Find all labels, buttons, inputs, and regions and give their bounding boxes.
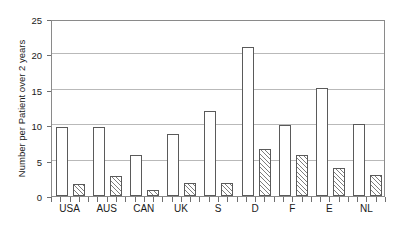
x-tick-mark: [97, 197, 98, 202]
x-tick-mark: [60, 197, 61, 202]
x-tick-label-usa: USA: [59, 203, 80, 214]
x-tick-mark: [264, 197, 265, 202]
bar-hatched-usa: [73, 184, 85, 196]
x-tick-mark: [218, 197, 219, 202]
y-tick-label: 15: [0, 85, 42, 96]
x-tick-mark: [125, 197, 126, 202]
x-tick-mark: [172, 197, 173, 202]
y-axis-title: Number per Patient over 2 years: [16, 14, 27, 204]
bar-hatched-nl: [370, 175, 382, 196]
x-tick-mark: [339, 197, 340, 202]
x-tick-mark: [199, 197, 200, 202]
x-tick-label-nl: NL: [360, 203, 373, 214]
x-tick-mark: [246, 197, 247, 202]
x-tick-mark: [357, 197, 358, 202]
y-tick-label: 20: [0, 50, 42, 61]
x-tick-mark: [320, 197, 321, 202]
x-tick-mark: [153, 197, 154, 202]
bar-hatched-aus: [110, 176, 122, 196]
y-tick-label: 0: [0, 192, 42, 203]
bar-hatched-d: [259, 149, 271, 196]
x-tick-mark: [283, 197, 284, 202]
bar-open-f: [279, 125, 291, 196]
x-tick-mark: [376, 197, 377, 202]
x-tick-mark: [237, 197, 238, 202]
x-tick-mark: [144, 197, 145, 202]
plot-area: [51, 20, 385, 197]
bar-open-s: [204, 111, 216, 196]
x-tick-mark: [116, 197, 117, 202]
bar-open-aus: [93, 127, 105, 196]
x-tick-mark: [135, 197, 136, 202]
bar-chart: Number per Patient over 2 years 05101520…: [0, 0, 400, 233]
x-tick-mark: [274, 197, 275, 202]
bar-hatched-e: [333, 168, 345, 196]
x-tick-mark: [51, 197, 52, 202]
x-tick-label-s: S: [215, 203, 222, 214]
x-tick-mark: [162, 197, 163, 202]
bars-layer: [52, 21, 384, 196]
bar-open-uk: [167, 134, 179, 196]
bar-hatched-s: [221, 183, 233, 196]
bar-hatched-f: [296, 155, 308, 196]
bar-open-can: [130, 155, 142, 196]
x-tick-mark: [88, 197, 89, 202]
bar-hatched-uk: [184, 183, 196, 196]
x-tick-label-can: CAN: [133, 203, 154, 214]
x-tick-label-uk: UK: [174, 203, 188, 214]
x-tick-mark: [348, 197, 349, 202]
x-tick-label-aus: AUS: [96, 203, 117, 214]
x-tick-mark: [311, 197, 312, 202]
bar-hatched-can: [147, 190, 159, 196]
y-tick-label: 5: [0, 156, 42, 167]
bar-open-nl: [353, 124, 365, 196]
x-tick-mark: [107, 197, 108, 202]
y-tick-label: 10: [0, 121, 42, 132]
x-tick-mark: [366, 197, 367, 202]
x-tick-mark: [302, 197, 303, 202]
x-tick-mark: [227, 197, 228, 202]
x-tick-mark: [255, 197, 256, 202]
x-tick-label-e: E: [326, 203, 333, 214]
x-tick-mark: [70, 197, 71, 202]
y-tick-label: 25: [0, 15, 42, 26]
x-tick-mark: [181, 197, 182, 202]
x-tick-label-d: D: [251, 203, 258, 214]
x-tick-mark: [79, 197, 80, 202]
bar-open-e: [316, 88, 328, 196]
bar-open-usa: [56, 127, 68, 196]
x-tick-mark: [209, 197, 210, 202]
x-tick-mark: [329, 197, 330, 202]
x-tick-label-f: F: [289, 203, 295, 214]
x-tick-mark: [385, 197, 386, 202]
x-tick-mark: [292, 197, 293, 202]
bar-open-d: [242, 47, 254, 196]
x-tick-mark: [190, 197, 191, 202]
